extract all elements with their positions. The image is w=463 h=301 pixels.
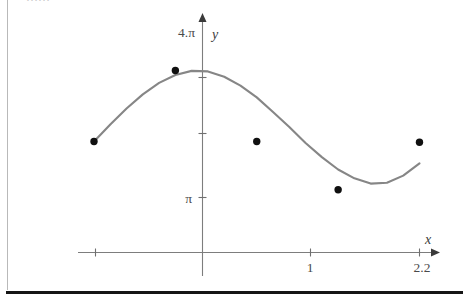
x-axis-label: x [424,232,432,247]
y-axis: π 4.π y [178,13,219,276]
scanned-page: …… 1 2.2 x π 4.π y [0,0,463,301]
plot-data-points [90,67,423,194]
x-axis-tick-label-2point2: 2.2 [414,260,431,275]
y-axis-label: y [210,27,219,42]
y-axis-arrowhead [199,13,207,22]
data-point-2 [253,138,260,145]
x-axis-arrowhead [431,249,440,257]
x-axis: 1 2.2 x [78,232,440,275]
data-point-4 [416,139,423,146]
data-point-0 [90,138,97,145]
y-axis-tick-label-pi: π [185,191,192,206]
x-axis-tick-label-1: 1 [307,260,314,275]
function-plot: 1 2.2 x π 4.π y [0,0,463,301]
page-bottom-rule [6,291,463,294]
data-point-3 [334,186,341,193]
data-point-1 [172,67,179,74]
y-axis-tick-label-4pi: 4.π [178,25,195,40]
plot-curve [94,71,420,184]
